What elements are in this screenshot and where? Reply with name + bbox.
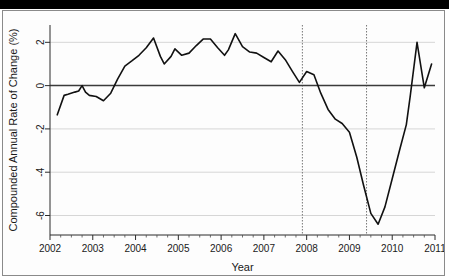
ticks-group [45, 42, 435, 240]
y-tick-label: -6 [35, 211, 46, 220]
gridlines-group [50, 42, 435, 215]
tick-labels-group: 20-2-4-620022003200420052006200720082009… [35, 39, 444, 254]
x-axis-title: Year [231, 261, 254, 273]
line-chart: 20-2-4-620022003200420052006200720082009… [3, 11, 444, 275]
y-tick-label: -2 [35, 124, 46, 133]
y-axis-title: Compounded Annual Rate of Change (%) [7, 28, 19, 231]
x-tick-label: 2006 [210, 243, 233, 254]
axes-group [50, 25, 435, 235]
y-tick-label: -4 [35, 167, 46, 176]
event-lines-group [302, 25, 366, 235]
x-tick-label: 2004 [124, 243, 147, 254]
chart-figure-frame: 20-2-4-620022003200420052006200720082009… [2, 10, 445, 276]
x-tick-label: 2011 [424, 243, 444, 254]
x-tick-label: 2010 [381, 243, 404, 254]
x-tick-label: 2005 [167, 243, 190, 254]
x-tick-label: 2008 [296, 243, 319, 254]
x-tick-label: 2007 [253, 243, 276, 254]
y-tick-label: 2 [35, 39, 46, 45]
x-tick-label: 2002 [39, 243, 62, 254]
top-black-bar [0, 0, 449, 9]
x-tick-label: 2009 [338, 243, 361, 254]
y-tick-label: 0 [35, 82, 46, 88]
x-tick-label: 2003 [82, 243, 105, 254]
screenshot-root: 20-2-4-620022003200420052006200720082009… [0, 0, 449, 280]
